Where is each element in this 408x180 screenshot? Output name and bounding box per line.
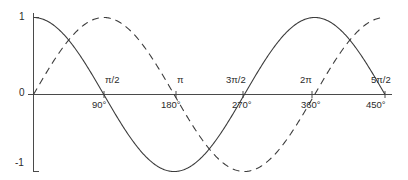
x-label-180-degrees: 180° [161, 100, 181, 110]
x-label-two-pi: 2π [300, 75, 312, 85]
x-label-pi: π [177, 75, 184, 85]
x-label-270-degrees: 270° [232, 100, 252, 110]
x-label-450-degrees: 450° [366, 100, 386, 110]
y-axis-label-zero: 0 [19, 88, 25, 98]
y-axis-label-one: 1 [19, 12, 25, 22]
x-label-360-degrees: 360° [301, 100, 321, 110]
plot-canvas [0, 0, 408, 180]
x-label-90-degrees: 90° [92, 100, 106, 110]
x-label-five-half-pi: 5π/2 [371, 75, 391, 85]
x-label-three-half-pi: 3π/2 [226, 75, 246, 85]
y-axis-label-minus-one: -1 [15, 158, 24, 168]
sine-cosine-graph-figure: 1 0 -1 π/2 π 3π/2 2π 5π/2 90° 180° 270° … [0, 0, 408, 180]
x-label-half-pi: π/2 [105, 75, 119, 85]
